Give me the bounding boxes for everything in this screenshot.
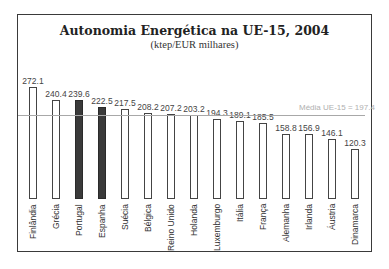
- category-label: Finlândia: [28, 205, 38, 240]
- bar-luxemburgo: [213, 119, 221, 199]
- chart-title: Autonomia Energética na UE-15, 2004: [18, 23, 371, 38]
- average-reference-line: [18, 115, 365, 116]
- bar-reino-unido: [167, 114, 175, 199]
- bar-irlanda: [305, 134, 313, 199]
- bar-value-label: 272.1: [18, 76, 48, 86]
- category-label: Dinamarca: [350, 204, 360, 245]
- category-label: Holanda: [189, 204, 199, 236]
- category-label: Alemanha: [281, 204, 291, 242]
- bar-value-label: 146.1: [317, 128, 347, 138]
- bar-espanha: [98, 107, 106, 199]
- bar-dinamarca: [351, 149, 359, 199]
- bar-áustria: [328, 139, 336, 199]
- average-reference-label: Média UE-15 = 197.4: [299, 103, 375, 112]
- category-label: Portugal: [74, 204, 84, 236]
- bar-value-label: 185.5: [248, 112, 278, 122]
- category-label: Reino Unido: [166, 204, 176, 251]
- bar-bélgica: [144, 113, 152, 199]
- chart-subtitle: (ktep/EUR milhares): [18, 39, 371, 50]
- category-label: Suécia: [120, 204, 130, 230]
- category-label: Espanha: [97, 204, 107, 238]
- category-label: Grécia: [51, 204, 61, 229]
- category-label: Irlanda: [304, 204, 314, 230]
- bar-finlândia: [29, 87, 37, 199]
- category-label: Áustria: [327, 204, 337, 230]
- category-label: Bélgica: [143, 204, 153, 232]
- bar-suécia: [121, 109, 129, 199]
- category-label: Luxemburgo: [212, 204, 222, 251]
- bar-holanda: [190, 115, 198, 199]
- bar-frança: [259, 123, 267, 199]
- bar-alemanha: [282, 134, 290, 199]
- category-label: França: [258, 204, 268, 230]
- bar-itália: [236, 121, 244, 199]
- category-label: Itália: [235, 204, 245, 222]
- bar-value-label: 120.3: [340, 138, 370, 148]
